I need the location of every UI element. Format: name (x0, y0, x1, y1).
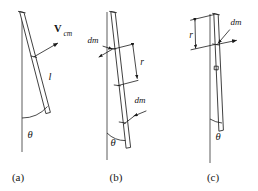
panel-a-caption: (a) (12, 171, 25, 184)
panel-b-angle-label: θ (110, 137, 115, 148)
panel-c-radius-label: r (189, 30, 193, 40)
panel-c-angle-label: θ (215, 131, 220, 142)
panel-b-dm-lower-label: dm (135, 95, 147, 105)
panel-c-caption: (c) (207, 171, 220, 184)
panel-b-caption: (b) (110, 171, 123, 184)
physics-diagram: V cm l θ (a) (0, 0, 258, 191)
panel-c-dm-label: dm (231, 17, 243, 27)
panel-a-velocity-label: V (54, 23, 62, 34)
panel-b-dm-upper-label: dm (88, 35, 100, 45)
figure-container: V cm l θ (a) (0, 0, 258, 191)
panel-a-length-label: l (49, 71, 52, 82)
panel-a-velocity-subscript: cm (64, 29, 73, 38)
panel-a-angle-label: θ (27, 129, 32, 140)
panel-b-radius-label: r (140, 57, 144, 67)
